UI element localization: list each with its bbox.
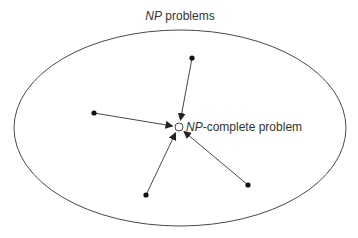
node-top <box>189 55 194 60</box>
set-title: NP problems <box>145 9 214 23</box>
node-bottom-right <box>245 182 250 187</box>
node-left <box>91 110 96 115</box>
np-complete-label: NP-complete problem <box>186 120 302 134</box>
np-diagram: NP problems NP-complete problem <box>0 0 358 238</box>
np-complete-node <box>175 123 183 131</box>
arrow-left <box>94 113 173 126</box>
diagram-canvas: NP problems NP-complete problem <box>0 0 358 238</box>
node-bottom-left <box>143 192 148 197</box>
arrow-bottom-left <box>146 133 176 195</box>
arrow-bottom-right <box>184 132 248 186</box>
arrow-top <box>181 58 193 120</box>
